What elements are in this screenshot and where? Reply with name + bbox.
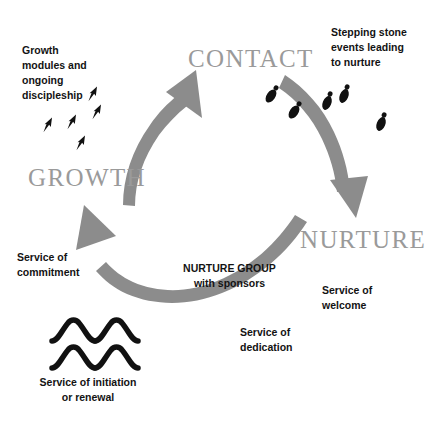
note-service-of-welcome: Service of welcome — [322, 283, 372, 313]
water-waves-icon — [52, 320, 138, 368]
arrow-contact-to-nurture — [279, 75, 368, 218]
stage-heading-nurture: NURTURE — [300, 227, 426, 252]
note-growth-modules: Growth modules and ongoing discipleship — [22, 43, 87, 103]
cycle-diagram: CONTACT NURTURE GROWTH Growth modules an… — [0, 0, 432, 431]
note-service-of-dedication: Service of dedication — [240, 325, 293, 355]
note-service-of-initiation-or-renewal: Service of initiation or renewal — [18, 375, 158, 405]
note-service-of-commitment: Service of commitment — [17, 250, 79, 280]
stage-heading-growth: GROWTH — [28, 165, 146, 190]
stage-heading-contact: CONTACT — [188, 46, 314, 71]
note-stepping-stone-events: Stepping stone events leading to nurture — [331, 25, 407, 70]
note-nurture-group-with-sponsors: NURTURE GROUP with sponsors — [172, 261, 287, 291]
